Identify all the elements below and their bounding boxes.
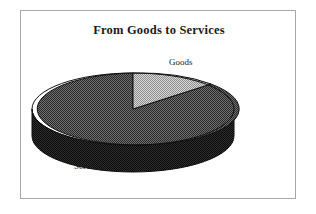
pie-chart-graphic xyxy=(21,11,297,200)
pie-label-services: Services xyxy=(74,161,105,171)
pie-label-goods: Goods xyxy=(169,57,193,67)
chart-plot-frame: From Goods to Services xyxy=(20,10,296,199)
chart-figure: From Goods to Services xyxy=(0,0,316,214)
